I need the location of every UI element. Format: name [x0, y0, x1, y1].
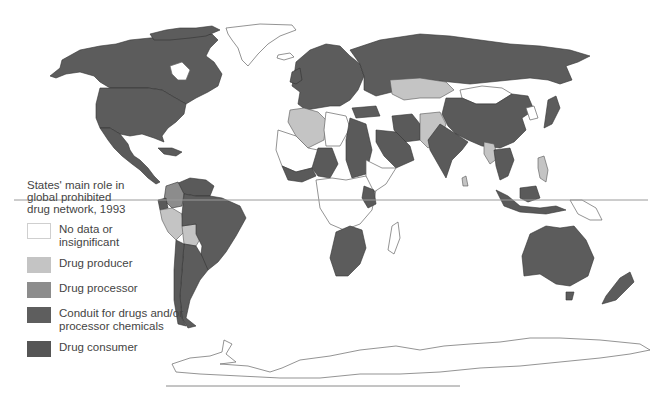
- legend-label: No data or insignificant: [59, 223, 119, 248]
- legend-label-line: Conduit for drugs and/or: [59, 307, 183, 320]
- region-russia: [350, 34, 590, 96]
- region-iceland: [277, 53, 294, 60]
- legend-label: Conduit for drugs and/or processor chemi…: [59, 307, 183, 332]
- region-tasmania: [566, 292, 574, 300]
- legend-label-line: insignificant: [59, 236, 119, 249]
- legend-item-conduit: Conduit for drugs and/or processor chemi…: [27, 307, 202, 332]
- legend-title-line: global prohibited: [27, 191, 202, 203]
- legend-swatch-conduit: [27, 307, 51, 323]
- legend-swatch-processor: [27, 282, 51, 298]
- map-legend: States' main role in global prohibited d…: [27, 179, 202, 366]
- legend-label-line: processor chemicals: [59, 320, 183, 333]
- legend-item-no-data: No data or insignificant: [27, 223, 202, 248]
- legend-label-line: No data or: [59, 223, 119, 236]
- legend-label: Drug producer: [59, 257, 133, 270]
- region-japan: [544, 96, 560, 128]
- legend-swatch-no-data: [27, 223, 51, 239]
- region-new-zealand: [602, 272, 634, 304]
- legend-label: Drug consumer: [59, 341, 138, 354]
- region-caribbean: [158, 148, 182, 156]
- region-sri-lanka: [462, 176, 468, 186]
- region-korea: [526, 106, 538, 120]
- legend-title: States' main role in global prohibited d…: [27, 179, 202, 215]
- legend-item-consumer: Drug consumer: [27, 341, 202, 357]
- region-antarctica: [172, 338, 650, 378]
- legend-title-line: drug network, 1993: [27, 203, 202, 215]
- legend-label: Drug processor: [59, 282, 138, 295]
- legend-swatch-consumer: [27, 341, 51, 357]
- region-papua: [570, 200, 602, 220]
- region-australia: [522, 226, 594, 286]
- region-philippines: [538, 156, 548, 182]
- region-southern-africa: [330, 226, 366, 276]
- legend-swatch-producer: [27, 257, 51, 273]
- legend-title-line: States' main role in: [27, 179, 202, 191]
- region-turkey: [352, 106, 380, 118]
- region-madagascar: [388, 222, 400, 254]
- legend-item-processor: Drug processor: [27, 282, 202, 298]
- region-indochina: [494, 148, 514, 180]
- legend-item-producer: Drug producer: [27, 257, 202, 273]
